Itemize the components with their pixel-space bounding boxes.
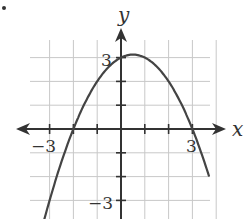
y-tick-label-pos3: 3	[101, 50, 112, 70]
x-tick-label-neg3: −3	[31, 136, 56, 156]
x-axis-label: x	[232, 117, 243, 141]
x-tick-label-pos3: 3	[186, 136, 197, 156]
y-axis-label: y	[117, 3, 130, 27]
y-tick-label-neg3: −3	[88, 193, 113, 213]
parabola-graph: y x −3 3 3 −3	[0, 0, 245, 219]
parabola-curve	[43, 55, 210, 219]
